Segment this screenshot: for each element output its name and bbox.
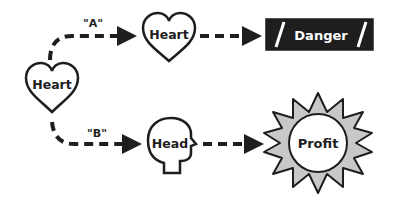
start-heart-label: Heart — [32, 77, 72, 92]
start-heart-node: Heart — [26, 63, 78, 112]
middle-heart-node: Heart — [143, 13, 195, 61]
edge-label-a: "A" — [83, 17, 103, 30]
head-node: Head — [148, 118, 196, 173]
edge-label-b: "B" — [87, 127, 107, 140]
diagram-canvas: "A" "B" Heart Heart Head Danger Profit — [0, 0, 396, 204]
head-label: Head — [152, 136, 188, 151]
profit-sunburst: Profit — [264, 93, 372, 193]
danger-banner: Danger — [266, 19, 373, 50]
danger-label: Danger — [294, 28, 348, 43]
middle-heart-label: Heart — [149, 27, 189, 42]
profit-label: Profit — [298, 136, 339, 151]
edge-start-to-heart — [50, 36, 133, 60]
